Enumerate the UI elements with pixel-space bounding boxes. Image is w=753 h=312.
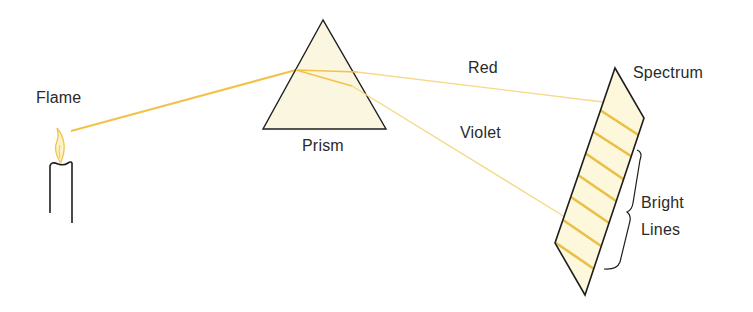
violet-ray [352, 86, 565, 217]
red-ray [357, 72, 603, 102]
spectrum-label: Spectrum [633, 65, 703, 81]
red-label: Red [468, 60, 498, 76]
violet-label: Violet [460, 125, 501, 141]
diagram-canvas [0, 0, 753, 312]
prism-label: Prism [302, 138, 344, 154]
flame-label: Flame [36, 90, 81, 106]
bright-label: Bright [641, 195, 684, 211]
flame-icon [56, 128, 65, 162]
incident-light-ray [71, 70, 296, 131]
lines-label: Lines [641, 222, 680, 238]
candle-icon [50, 162, 72, 223]
spectroscope-diagram: Flame Prism Red Violet Spectrum Bright L… [0, 0, 753, 312]
